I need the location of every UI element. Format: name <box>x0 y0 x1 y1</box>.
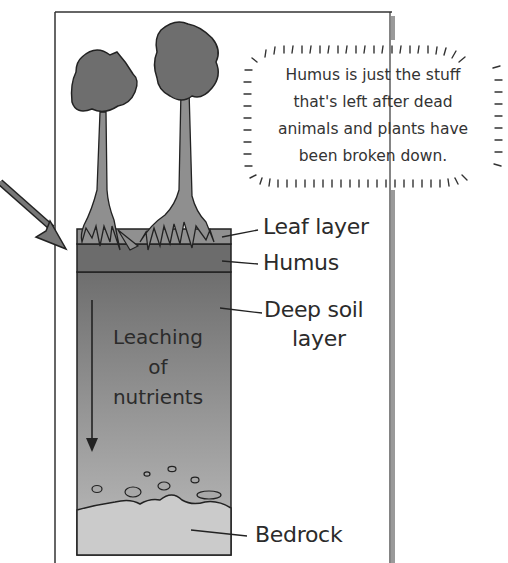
humus-layer <box>77 244 231 272</box>
callout-line: animals and plants have <box>266 116 480 143</box>
leaching-label-line2: of <box>88 352 228 382</box>
leaching-label-line3: nutrients <box>88 382 228 412</box>
pointer-arrow-icon <box>0 182 66 249</box>
tree-left <box>72 50 138 250</box>
callout-text: Humus is just the stuff that's left afte… <box>266 62 480 170</box>
callout-line: that's left after dead <box>266 89 480 116</box>
callout-line: been broken down. <box>266 143 480 170</box>
bedrock-layer <box>77 495 231 555</box>
callout-bottom-ticks <box>250 175 467 187</box>
label-humus: Humus <box>263 250 339 275</box>
label-leaf-layer: Leaf layer <box>263 214 369 239</box>
callout-right-ticks <box>493 66 502 166</box>
tree-right <box>118 22 218 250</box>
callout-top-ticks <box>252 46 465 62</box>
label-bedrock: Bedrock <box>255 522 342 547</box>
callout-line: Humus is just the stuff <box>266 62 480 89</box>
callout-left-ticks <box>244 70 252 166</box>
leaching-label-line1: Leaching <box>88 322 228 352</box>
label-deep-soil-line2: layer <box>292 326 346 351</box>
label-deep-soil-line1: Deep soil <box>264 297 363 322</box>
